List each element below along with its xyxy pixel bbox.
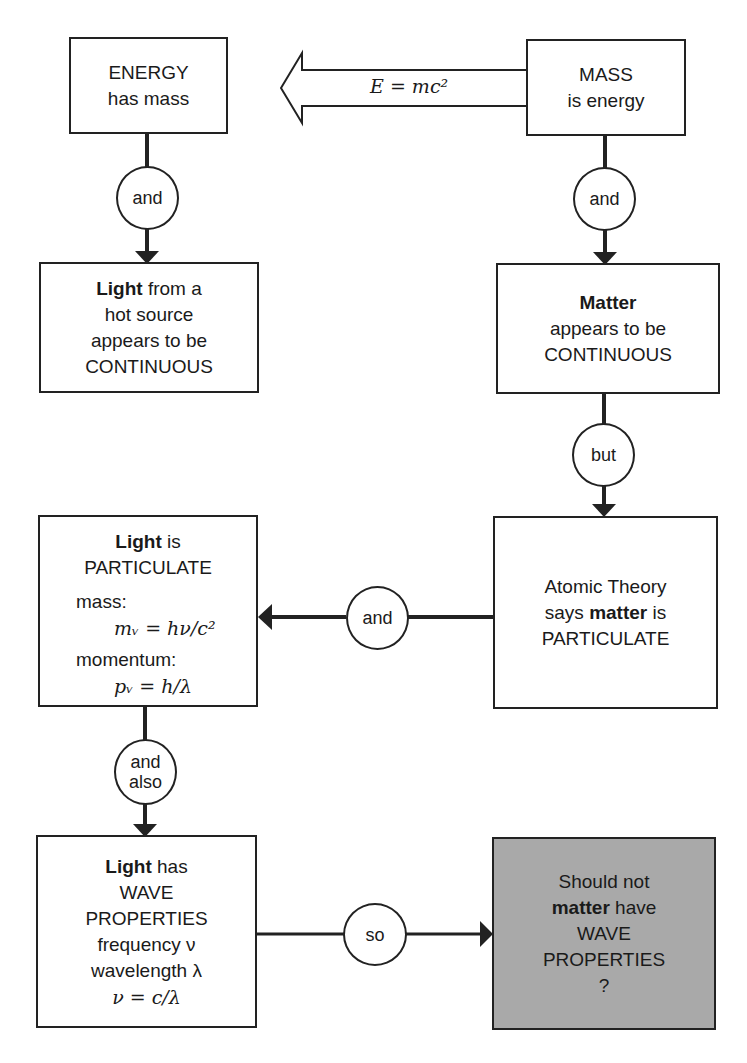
connector-label: and bbox=[362, 608, 392, 628]
light-wave-line4: frequency ν bbox=[97, 932, 195, 958]
arrow-left-icon bbox=[258, 604, 272, 630]
connector-so: so bbox=[343, 903, 407, 966]
connector-and-right: and bbox=[573, 167, 636, 231]
atomic-theory-line3: PARTICULATE bbox=[542, 626, 670, 652]
connector-label: and bbox=[589, 189, 619, 209]
connector-label: and bbox=[132, 188, 162, 208]
atomic-theory-box: Atomic Theory says matter is PARTICULATE bbox=[493, 516, 718, 709]
light-wave-line1: Light has bbox=[105, 854, 187, 880]
light-wave-line3: PROPERTIES bbox=[85, 906, 207, 932]
atomic-theory-line1: Atomic Theory bbox=[544, 574, 666, 600]
equivalence-label: E = mc² bbox=[370, 75, 448, 97]
connector-label: but bbox=[591, 445, 616, 465]
question-line1: Should not bbox=[559, 869, 650, 895]
mass-box: MASS is energy bbox=[526, 39, 686, 136]
momentum-equation: pᵥ = h/λ bbox=[114, 673, 192, 699]
matter-continuous-line2: appears to be bbox=[550, 316, 666, 342]
light-continuous-line1: Light from a bbox=[96, 276, 202, 302]
light-wave-line5: wavelength λ bbox=[91, 958, 202, 984]
light-particulate-line1: Light is bbox=[115, 529, 180, 555]
light-wave-box: Light has WAVE PROPERTIES frequency ν wa… bbox=[36, 835, 257, 1028]
mass-subtitle: is energy bbox=[567, 88, 644, 114]
matter-continuous-box: Matter appears to be CONTINUOUS bbox=[496, 263, 720, 394]
light-continuous-line4: CONTINUOUS bbox=[85, 354, 213, 380]
light-particulate-box: Light is PARTICULATE mass: mᵥ = hν/c² mo… bbox=[38, 515, 258, 707]
mass-title: MASS bbox=[579, 62, 633, 88]
mass-equation: mᵥ = hν/c² bbox=[114, 615, 216, 641]
energy-box: ENERGY has mass bbox=[69, 37, 228, 134]
light-continuous-line3: appears to be bbox=[91, 328, 207, 354]
light-wave-line2: WAVE bbox=[120, 880, 174, 906]
energy-subtitle: has mass bbox=[108, 86, 189, 112]
question-line4: PROPERTIES bbox=[543, 947, 665, 973]
connector-and-left: and bbox=[116, 166, 179, 230]
question-line2: matter have bbox=[552, 895, 657, 921]
question-line5: ? bbox=[599, 973, 610, 999]
mass-label: mass: bbox=[76, 589, 127, 615]
connector-but: but bbox=[572, 423, 635, 487]
light-continuous-line2: hot source bbox=[105, 302, 194, 328]
momentum-label: momentum: bbox=[76, 647, 176, 673]
question-box: Should not matter have WAVE PROPERTIES ? bbox=[492, 837, 716, 1030]
matter-continuous-title: Matter bbox=[579, 290, 636, 316]
light-wave-line6: ν = c/λ bbox=[112, 984, 181, 1010]
light-particulate-line2: PARTICULATE bbox=[84, 555, 212, 581]
light-continuous-box: Light from a hot source appears to be CO… bbox=[39, 262, 259, 393]
matter-continuous-line3: CONTINUOUS bbox=[544, 342, 672, 368]
question-line3: WAVE bbox=[577, 921, 631, 947]
connector-and-also: and also bbox=[114, 739, 177, 805]
connector-label-line2: also bbox=[129, 772, 162, 792]
connector-label-line1: and bbox=[130, 752, 160, 772]
connector-and-middle: and bbox=[346, 586, 409, 650]
energy-title: ENERGY bbox=[108, 60, 188, 86]
connector-label: so bbox=[365, 925, 384, 945]
atomic-theory-line2: says matter is bbox=[545, 600, 666, 626]
